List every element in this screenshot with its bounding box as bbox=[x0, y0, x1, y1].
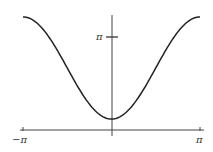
x-tick-label-pos-pi: π bbox=[196, 135, 203, 145]
y-tick-label-pi: π bbox=[96, 32, 103, 42]
chart-canvas bbox=[0, 0, 213, 152]
x-tick-label-neg-pi: −π bbox=[12, 135, 27, 145]
